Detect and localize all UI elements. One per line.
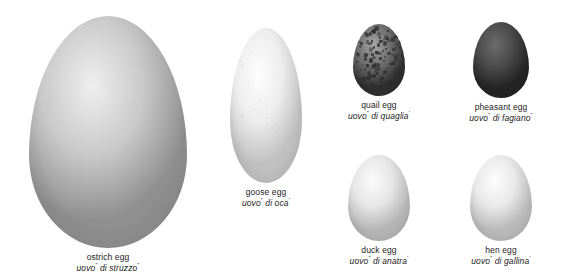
specimen-ostrich: ostrich egg uovo” di struzzo” — [10, 16, 206, 274]
specimen-quail: quail egg uovo” di quaglia’ — [327, 24, 431, 122]
caption-sup-duck-2: ’ — [407, 255, 408, 261]
caption-pheasant: pheasant egg uovo” di fagiano” — [446, 102, 556, 124]
caption-sup-quail-2: ’ — [409, 110, 410, 116]
egg-image-goose — [230, 28, 302, 183]
caption-hen: hen egg uovo” di gallina’ — [446, 245, 556, 267]
specimen-goose: goose egg uovo” di oca’ — [214, 28, 318, 209]
caption-it-duck: uovo” di anatra’ — [327, 255, 431, 266]
egg-shape-quail — [353, 24, 405, 96]
caption-sup-pheasant-2: ” — [531, 112, 533, 118]
caption-ostrich: ostrich egg uovo” di struzzo” — [10, 252, 206, 274]
egg-image-hen — [470, 155, 532, 241]
specimen-pheasant: pheasant egg uovo” di fagiano” — [446, 22, 556, 124]
specimen-duck: duck egg uovo” di anatra’ — [327, 155, 431, 267]
caption-it-goose: uovo” di oca’ — [214, 197, 318, 208]
caption-it-pheasant: uovo” di fagiano” — [446, 112, 556, 123]
caption-en-ostrich: ostrich egg — [10, 252, 206, 262]
egg-image-ostrich — [29, 16, 187, 248]
caption-it-ostrich: uovo” di struzzo” — [10, 262, 206, 273]
egg-speckles-hen — [470, 155, 532, 241]
egg-shape-hen — [470, 155, 532, 241]
caption-en-hen: hen egg — [446, 245, 556, 255]
caption-en-goose: goose egg — [214, 187, 318, 197]
caption-it-hen: uovo” di gallina’ — [446, 255, 556, 266]
caption-sup-goose-2: ’ — [289, 197, 290, 203]
caption-quail: quail egg uovo” di quaglia’ — [327, 100, 431, 122]
specimen-hen: hen egg uovo” di gallina’ — [446, 155, 556, 267]
caption-en-quail: quail egg — [327, 100, 431, 110]
egg-image-quail — [353, 24, 405, 96]
egg-size-comparison-figure: ostrich egg uovo” di struzzo” goose egg … — [0, 0, 565, 275]
egg-shape-duck — [348, 155, 410, 241]
egg-image-pheasant — [473, 22, 529, 98]
caption-it-quail: uovo” di quaglia’ — [327, 110, 431, 121]
egg-image-duck — [348, 155, 410, 241]
egg-shape-pheasant — [473, 22, 529, 98]
egg-speckles-pheasant — [473, 22, 529, 98]
caption-goose: goose egg uovo” di oca’ — [214, 187, 318, 209]
egg-speckles-goose — [230, 28, 302, 183]
egg-shape-ostrich — [29, 16, 187, 248]
caption-duck: duck egg uovo” di anatra’ — [327, 245, 431, 267]
egg-speckles-ostrich — [29, 16, 187, 248]
caption-en-duck: duck egg — [327, 245, 431, 255]
egg-speckles-quail — [353, 24, 405, 96]
caption-en-pheasant: pheasant egg — [446, 102, 556, 112]
caption-sup-ostrich-2: ” — [137, 262, 139, 268]
egg-speckles-duck — [348, 155, 410, 241]
caption-sup-hen-2: ’ — [529, 255, 530, 261]
egg-shape-goose — [230, 28, 302, 183]
